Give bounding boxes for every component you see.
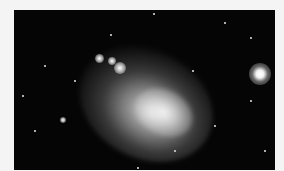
- star: [44, 65, 46, 67]
- star: [224, 22, 226, 24]
- star: [22, 95, 24, 97]
- star: [153, 13, 155, 15]
- star: [250, 37, 252, 39]
- star: [110, 34, 112, 36]
- star: [174, 150, 176, 152]
- globular-cluster: [249, 63, 271, 85]
- star: [214, 125, 216, 127]
- star: [264, 150, 266, 152]
- galaxy-photo: [14, 10, 275, 170]
- star: [250, 100, 252, 102]
- bright-knot: [60, 117, 66, 123]
- bright-knot: [95, 54, 104, 63]
- star: [192, 70, 194, 72]
- bright-knot: [114, 62, 126, 74]
- star: [137, 167, 139, 169]
- star: [34, 130, 36, 132]
- star: [74, 80, 76, 82]
